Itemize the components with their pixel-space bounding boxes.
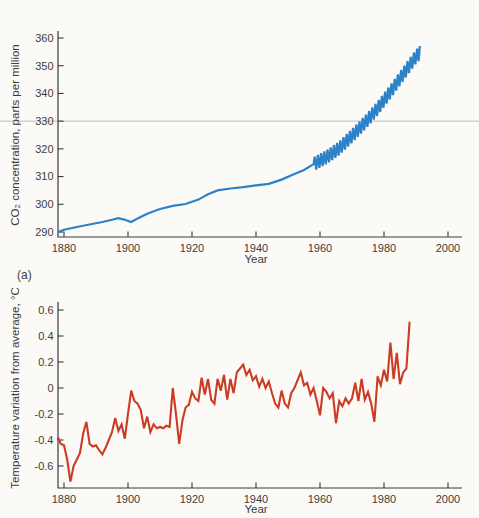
temperature-x-axis-title: Year	[244, 503, 267, 515]
x-tick-label: 1980	[372, 242, 396, 254]
y-tick-label: 310	[35, 170, 53, 182]
scanned-textbook-figure: 2903003103203303403503601880190019201940…	[0, 0, 479, 518]
y-tick-label: 350	[35, 60, 53, 72]
y-tick-label: 0	[47, 382, 53, 394]
charts-svg: 2903003103203303403503601880190019201940…	[0, 0, 479, 518]
temperature-axes: 0.60.40.20-0.2-0.4-0.6188019001920194019…	[35, 302, 462, 505]
co2-line	[58, 46, 420, 232]
temperature-chart: 0.60.40.20-0.2-0.4-0.6188019001920194019…	[9, 287, 462, 515]
co2-x-axis-title: Year	[244, 253, 267, 265]
y-tick-label: 0.6	[38, 304, 53, 316]
x-tick-label: 1900	[116, 242, 140, 254]
y-tick-label: -0.2	[35, 408, 54, 420]
temperature-series	[58, 322, 410, 482]
co2-series	[58, 46, 420, 232]
x-tick-label: 1980	[372, 493, 396, 505]
y-tick-label: 0.2	[38, 356, 53, 368]
co2-chart: 2903003103203303403503601880190019201940…	[0, 31, 479, 265]
x-tick-label: 1940	[244, 242, 268, 254]
y-tick-label: 0.4	[38, 330, 53, 342]
co2-axes: 2903003103203303403503601880190019201940…	[35, 31, 462, 254]
y-tick-label: 360	[35, 32, 53, 44]
temperature-line	[58, 322, 410, 482]
axis-lines	[58, 31, 462, 237]
x-tick-label: 2000	[436, 242, 460, 254]
x-tick-label: 1880	[52, 242, 76, 254]
x-tick-label: 1900	[116, 493, 140, 505]
y-tick-label: -0.4	[35, 434, 54, 446]
axis-lines	[58, 302, 462, 488]
y-tick-label: 300	[35, 198, 53, 210]
x-tick-label: 1880	[52, 493, 76, 505]
x-tick-label: 1920	[180, 493, 204, 505]
y-tick-label: 320	[35, 143, 53, 155]
y-tick-label: -0.6	[35, 460, 54, 472]
temperature-y-axis-title: Temperature variation from average, °C	[9, 287, 21, 488]
y-tick-label: 330	[35, 115, 53, 127]
co2-y-axis-title: CO₂ concentration, parts per million	[9, 44, 21, 226]
y-tick-label: 340	[35, 87, 53, 99]
x-tick-label: 1960	[308, 242, 332, 254]
x-tick-label: 2000	[436, 493, 460, 505]
x-tick-label: 1920	[180, 242, 204, 254]
y-tick-label: 290	[35, 226, 53, 238]
panel-label-a: (a)	[17, 268, 32, 282]
x-tick-label: 1960	[308, 493, 332, 505]
